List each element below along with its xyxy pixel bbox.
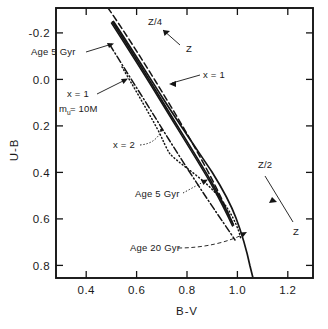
annotation-z-top: Z (186, 43, 192, 54)
leader-x2-endpoint (160, 129, 163, 132)
xtick-label-1: 0.6 (128, 284, 145, 296)
annotation-mu-tail: = 10M (70, 103, 98, 114)
arrowhead-z2 (269, 197, 277, 203)
leader-age20 (178, 234, 244, 248)
ytick-label-4: 0.6 (33, 213, 50, 225)
plot-frame (56, 8, 313, 278)
ytick-label-3: 0.4 (33, 167, 50, 179)
xtick-label-0: 0.4 (78, 284, 95, 296)
annotation-age20: Age 20 Gyr (130, 242, 180, 253)
figure-container: -0.2 0.0 0.2 0.4 0.6 0.8 0.4 0.6 0.8 1.0… (0, 0, 328, 329)
leader-x1-left (97, 80, 125, 94)
xtick-label-4: 1.2 (279, 284, 296, 296)
ytick-label-0: -0.2 (29, 27, 50, 39)
annotation-x2: x = 2 (113, 139, 135, 150)
annotation-mu: m u = 10M (59, 103, 98, 116)
annotation-z-right: Z (293, 226, 299, 237)
leader-x2 (140, 131, 161, 145)
annotation-age5-top: Age 5 Gyr (31, 46, 76, 57)
y-axis-title: U-B (8, 139, 20, 162)
arrowhead-x1-right (169, 81, 176, 87)
annotation-z4: Z/4 (148, 16, 162, 27)
ytick-label-5: 0.8 (33, 260, 50, 272)
annotation-age5-mid: Age 5 Gyr (135, 188, 180, 199)
annotation-mu-symbol: m (59, 103, 67, 114)
ytick-label-1: 0.0 (33, 74, 50, 86)
leader-z2-to-z (265, 176, 293, 222)
ytick-label-2: 0.2 (33, 120, 50, 132)
xtick-label-2: 0.8 (178, 284, 195, 296)
x-axis-title: B-V (176, 305, 198, 317)
color-color-diagram: -0.2 0.0 0.2 0.4 0.6 0.8 0.4 0.6 0.8 1.0… (0, 0, 328, 329)
annotation-z2: Z/2 (258, 159, 272, 170)
y-axis-ticks (56, 33, 63, 266)
annotation-x1-right: x = 1 (203, 69, 225, 80)
leader-age5-mid (183, 181, 205, 193)
leader-x1-right (172, 75, 200, 83)
annotation-x1-left: x = 1 (67, 88, 89, 99)
xtick-label-3: 1.0 (229, 284, 246, 296)
